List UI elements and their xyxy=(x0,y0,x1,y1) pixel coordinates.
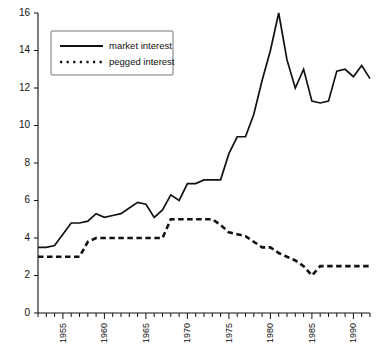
chart-legend: market interest pegged interest xyxy=(51,31,175,75)
y-axis-tick-label: 12 xyxy=(19,82,31,93)
x-axis-tick-label: 1955 xyxy=(58,323,68,343)
x-axis-tick-label: 1970 xyxy=(182,323,192,343)
y-axis-tick-label: 14 xyxy=(19,44,31,55)
x-axis-tick-labels: 19551960196519701975198019851990 xyxy=(58,323,359,343)
series-line-pegged-interest xyxy=(38,219,370,275)
x-axis-tick-label: 1990 xyxy=(348,323,358,343)
legend-box xyxy=(51,31,173,75)
y-axis-tick-label: 2 xyxy=(24,269,30,280)
x-axis-tick-label: 1965 xyxy=(141,323,151,343)
y-axis-ticks: 0246810121416 xyxy=(19,7,38,318)
legend-label-market-interest: market interest xyxy=(109,40,172,51)
interest-rate-line-chart: 0246810121416 19551960196519701975198019… xyxy=(0,0,378,359)
y-axis-tick-label: 8 xyxy=(24,157,30,168)
x-axis-tick-label: 1985 xyxy=(307,323,317,343)
y-axis-tick-label: 0 xyxy=(24,307,30,318)
x-axis-tick-label: 1980 xyxy=(265,323,275,343)
x-axis-tick-label: 1975 xyxy=(224,323,234,343)
x-axis-ticks xyxy=(38,313,370,319)
y-axis-tick-label: 16 xyxy=(19,7,31,18)
x-axis-tick-label: 1960 xyxy=(99,323,109,343)
y-axis-tick-label: 10 xyxy=(19,119,31,130)
y-axis-tick-label: 6 xyxy=(24,194,30,205)
chart-container: 0246810121416 19551960196519701975198019… xyxy=(0,0,378,359)
y-axis-tick-label: 4 xyxy=(24,232,30,243)
legend-label-pegged-interest: pegged interest xyxy=(109,56,175,67)
